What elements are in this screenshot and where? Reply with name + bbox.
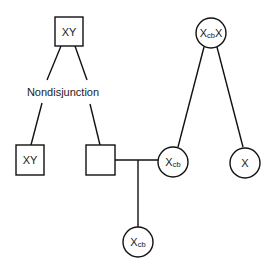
genotype-label: X — [241, 157, 249, 169]
node-grandfather: XY — [55, 17, 83, 46]
node-daughter-x: X — [230, 148, 260, 178]
pedigree-diagram: XY XcbX Nondisjunction XY Xcb X Xcb — [0, 0, 266, 271]
line-gm-to-daughter-carrier — [178, 47, 204, 147]
node-grandchild: Xcb — [123, 227, 153, 257]
node-daughter-carrier: Xcb — [158, 147, 188, 177]
line-gf-to-left-upper — [47, 46, 61, 80]
node-son-xy: XY — [16, 145, 44, 175]
node-grandmother: XcbX — [196, 18, 226, 48]
square-male — [86, 145, 115, 175]
line-gf-to-right-upper — [75, 46, 87, 80]
line-gf-to-son-xy — [31, 103, 42, 145]
genotype-label: XY — [23, 154, 38, 166]
genotype-label: XY — [62, 26, 77, 38]
nondisjunction-label: Nondisjunction — [27, 86, 99, 98]
line-gm-to-daughter-x — [217, 47, 243, 147]
line-gf-to-son-nullo — [90, 104, 100, 145]
node-son-nullo — [86, 145, 115, 175]
